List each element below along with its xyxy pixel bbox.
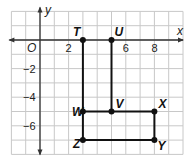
point-label-X: X <box>157 97 167 111</box>
point-T <box>80 37 86 43</box>
point-label-U: U <box>115 25 124 39</box>
figure-segments <box>80 37 157 143</box>
point-V <box>109 109 115 115</box>
point-label-Y: Y <box>157 139 166 153</box>
axes <box>8 6 184 155</box>
y-tick-label: −4 <box>23 91 36 103</box>
point-label-Z: Z <box>72 137 81 151</box>
y-tick-label: −2 <box>23 63 36 75</box>
x-tick-label: 8 <box>151 42 157 54</box>
point-Z <box>80 137 86 143</box>
origin-label: O <box>27 41 36 55</box>
point-X <box>151 109 157 115</box>
point-label-V: V <box>116 97 125 111</box>
coordinate-grid: xyO268−2−4−6TUVWXYZ <box>0 0 190 164</box>
point-label-W: W <box>72 105 85 119</box>
x-tick-label: 6 <box>123 42 129 54</box>
x-tick-label: 2 <box>66 42 72 54</box>
y-arrow-up-icon <box>38 6 43 12</box>
grid-lines <box>11 11 183 154</box>
x-axis-label: x <box>176 24 184 38</box>
y-tick-label: −6 <box>23 120 36 132</box>
point-label-T: T <box>73 25 82 39</box>
y-axis-label: y <box>44 3 52 17</box>
